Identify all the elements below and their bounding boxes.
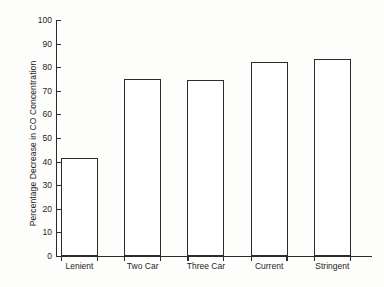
bar bbox=[124, 79, 161, 256]
x-tick-mark bbox=[160, 256, 161, 261]
bar-chart: Percentage Decrease in CO Concentration … bbox=[0, 0, 384, 287]
y-tick-mark bbox=[56, 114, 61, 115]
y-tick-label: 0 bbox=[47, 252, 52, 261]
bar bbox=[187, 80, 224, 256]
y-tick-label: 30 bbox=[43, 181, 52, 190]
y-tick-label: 70 bbox=[43, 87, 52, 96]
x-tick-label: Stringent bbox=[292, 262, 372, 271]
y-tick-mark bbox=[56, 44, 61, 45]
x-tick-mark bbox=[286, 256, 287, 261]
y-tick-label: 90 bbox=[43, 39, 52, 48]
y-tick-label: 40 bbox=[43, 157, 52, 166]
y-tick-mark bbox=[56, 67, 61, 68]
bar bbox=[61, 158, 98, 256]
x-tick-mark bbox=[61, 256, 62, 261]
x-tick-mark bbox=[97, 256, 98, 261]
x-tick-mark bbox=[350, 256, 351, 261]
y-tick-mark bbox=[56, 209, 61, 210]
x-tick-mark bbox=[251, 256, 252, 261]
y-tick-mark bbox=[56, 162, 61, 163]
x-axis-line bbox=[56, 256, 372, 257]
y-tick-mark bbox=[56, 256, 61, 257]
y-tick-label: 20 bbox=[43, 205, 52, 214]
bar bbox=[314, 59, 351, 256]
y-tick-label: 80 bbox=[43, 63, 52, 72]
y-tick-mark bbox=[56, 185, 61, 186]
y-tick-mark bbox=[56, 232, 61, 233]
y-tick-label: 60 bbox=[43, 110, 52, 119]
x-tick-mark bbox=[124, 256, 125, 261]
y-tick-label: 100 bbox=[38, 16, 52, 25]
y-axis-title: Percentage Decrease in CO Concentration bbox=[22, 0, 44, 287]
y-tick-label: 10 bbox=[43, 228, 52, 237]
bar bbox=[251, 62, 288, 256]
y-tick-mark bbox=[56, 20, 61, 21]
y-tick-mark bbox=[56, 138, 61, 139]
y-tick-label: 50 bbox=[43, 134, 52, 143]
y-tick-mark bbox=[56, 91, 61, 92]
plot-area: 0102030405060708090100 LenientTwo CarThr… bbox=[56, 20, 372, 256]
